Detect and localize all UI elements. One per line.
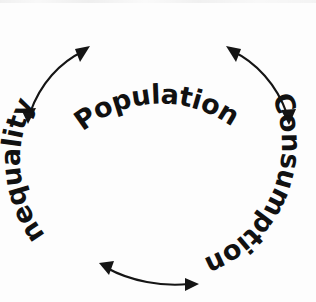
cycle-diagram: Population Consumption Inequality — [0, 0, 316, 302]
node-label-population: Population — [68, 78, 245, 136]
arrowhead-toward-population-left — [75, 46, 90, 62]
arrowhead-toward-inequality-bottom — [99, 261, 114, 275]
arrowhead-toward-consumption-bottom — [185, 278, 199, 291]
connector-inequality-consumption — [99, 261, 199, 291]
node-label-inequality-text: Inequality — [0, 0, 50, 249]
cycle-diagram-canvas: Population Consumption Inequality — [0, 0, 316, 302]
node-label-inequality: Inequality — [0, 0, 50, 249]
arc-upper-left — [30, 51, 84, 113]
arc-bottom — [107, 268, 189, 285]
node-label-population-text: Population — [68, 78, 245, 136]
arrowhead-toward-population-right — [226, 46, 241, 62]
